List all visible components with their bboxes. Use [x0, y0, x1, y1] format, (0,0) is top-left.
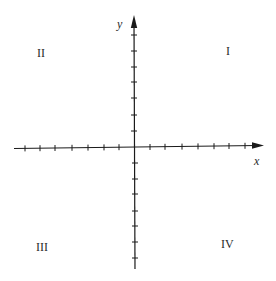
- x-axis-arrowhead-icon: [252, 142, 264, 149]
- quadrant-label-iv: IV: [221, 237, 234, 251]
- x-axis-label: x: [253, 154, 260, 168]
- quadrant-label-iii: III: [36, 240, 48, 254]
- quadrant-label-i: I: [226, 44, 230, 58]
- x-axis: x: [14, 142, 264, 168]
- y-axis: y: [116, 15, 138, 269]
- y-axis-label: y: [116, 17, 123, 31]
- y-axis-arrowhead-icon: [131, 15, 137, 28]
- coordinate-plane: x y II I III IV: [0, 0, 276, 281]
- quadrant-label-ii: II: [37, 46, 45, 60]
